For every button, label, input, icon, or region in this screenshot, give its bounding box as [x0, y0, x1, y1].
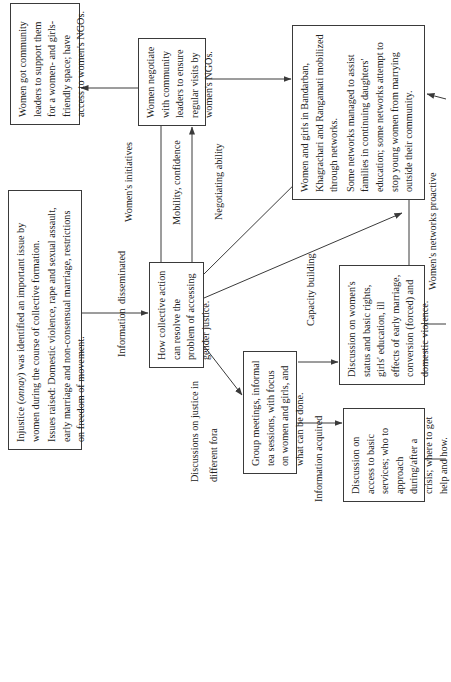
term-onnay: onnay: [15, 376, 26, 401]
box-text: Group meetings, informal tea sessions, w…: [249, 359, 307, 466]
box-injustice-identified: Injustice (onnay) was identified an impo…: [8, 190, 82, 450]
label-information: Information: [115, 308, 128, 357]
text-pre: Injustice (: [15, 401, 26, 442]
box-text-para2: Some networks managed to assist families…: [344, 33, 417, 192]
box-discussion-basic-services: Discussion on access to basic services; …: [343, 408, 425, 502]
label-womens-networks-proactive: Women's networks proactive: [426, 172, 439, 290]
label-womens-initiatives: Women's initiatives: [122, 142, 135, 222]
box-discussion-status-rights: Discussion on women's status and basic r…: [339, 265, 425, 385]
box-text-para1: Women and girls in Bandarban, Khagrachar…: [298, 33, 342, 192]
box-text: Discussion on access to basic services; …: [349, 416, 451, 494]
label-discussions-justice-line1: Discussions on justice in: [188, 381, 201, 482]
label-capacity-building: Capacity building: [304, 253, 317, 326]
box-group-meetings: Group meetings, informal tea sessions, w…: [243, 351, 297, 474]
box-text: Women negotiate with community leaders t…: [144, 46, 217, 118]
box-networks-mobilized: Women and girls in Bandarban, Khagrachar…: [292, 25, 425, 200]
box-text: Discussion on women's status and basic r…: [345, 273, 433, 377]
label-disseminated: disseminated: [115, 251, 128, 304]
label-mobility-confidence: Mobility, confidence: [170, 140, 183, 225]
box-text-para1: Injustice (onnay) was identified an impo…: [14, 198, 43, 442]
box-text: Women got community leaders to support t…: [16, 11, 89, 117]
label-information-acquired: Information acquired: [312, 416, 325, 502]
box-collective-action: How collective action can resolve the pr…: [149, 262, 204, 368]
label-negotiating-ability: Negotiating ability: [212, 143, 225, 220]
label-discussions-justice-line2: different fora: [207, 428, 220, 482]
box-text-para2: Issues raised: Domestic violence, rape a…: [45, 198, 89, 442]
box-negotiate-visits: Women negotiate with community leaders t…: [138, 38, 206, 126]
box-text: How collective action can resolve the pr…: [155, 270, 213, 360]
box-community-leaders-support: Women got community leaders to support t…: [10, 3, 80, 125]
